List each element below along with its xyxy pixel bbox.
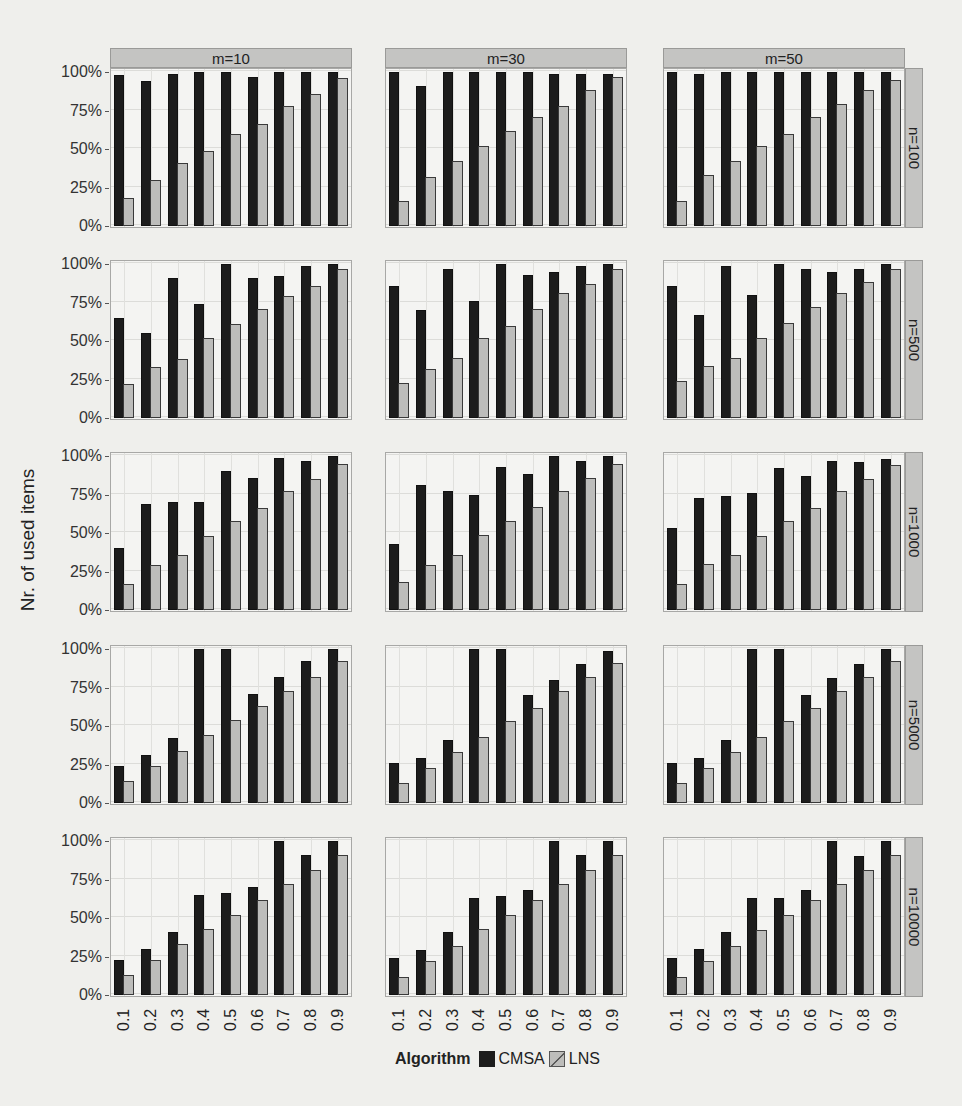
legend-swatch-cmsa bbox=[479, 1051, 495, 1067]
bar-lns bbox=[676, 783, 687, 803]
bar-lns bbox=[585, 478, 596, 610]
bar-lns bbox=[177, 163, 188, 226]
y-tick-label: 75% bbox=[52, 871, 102, 889]
bar-lns bbox=[890, 855, 901, 995]
bar-lns bbox=[283, 296, 294, 418]
bar-lns bbox=[177, 751, 188, 803]
bar-lns bbox=[730, 555, 741, 610]
bar-lns bbox=[783, 521, 794, 610]
bar-lns bbox=[257, 124, 268, 226]
bar-lns bbox=[756, 146, 767, 226]
bar-lns bbox=[532, 708, 543, 803]
bar-lns bbox=[452, 946, 463, 995]
x-tick-label: 0.4 bbox=[470, 1009, 488, 1031]
bar-lns bbox=[257, 900, 268, 995]
y-tick-label: 25% bbox=[52, 371, 102, 389]
bar-lns bbox=[425, 565, 436, 610]
bar-lns bbox=[612, 663, 623, 803]
x-tick-label: 0.2 bbox=[142, 1009, 160, 1031]
bar-lns bbox=[558, 293, 569, 418]
bar-lns bbox=[532, 117, 543, 226]
facet-strip-label: n=100 bbox=[906, 127, 923, 169]
bar-lns bbox=[836, 691, 847, 803]
x-tick-label: 0.3 bbox=[444, 1009, 462, 1031]
bar-lns bbox=[478, 929, 489, 995]
vertical-gridline bbox=[124, 646, 125, 804]
bar-lns bbox=[310, 870, 321, 995]
bar-lns bbox=[730, 946, 741, 995]
bar-lns bbox=[558, 106, 569, 226]
x-tick-label: 0.5 bbox=[497, 1009, 515, 1031]
panel-n=5000-m=50 bbox=[663, 645, 905, 805]
bar-lns bbox=[337, 855, 348, 995]
y-tick-mark bbox=[105, 264, 109, 265]
y-tick-label: 0% bbox=[52, 794, 102, 812]
bar-lns bbox=[810, 307, 821, 418]
bar-lns bbox=[150, 367, 161, 418]
bar-lns bbox=[505, 131, 516, 226]
facet-strip-label: n=5000 bbox=[906, 700, 923, 750]
y-tick-label: 50% bbox=[52, 909, 102, 927]
bar-lns bbox=[425, 177, 436, 226]
x-tick-label: 0.9 bbox=[329, 1009, 347, 1031]
bar-lns bbox=[703, 564, 714, 610]
bar-lns bbox=[203, 338, 214, 418]
y-tick-mark bbox=[105, 649, 109, 650]
y-tick-mark bbox=[105, 188, 109, 189]
y-tick-mark bbox=[105, 533, 109, 534]
y-tick-mark bbox=[105, 957, 109, 958]
bar-lns bbox=[890, 80, 901, 226]
y-tick-label: 100% bbox=[52, 63, 102, 81]
facet-strip-n-1000: n=1000 bbox=[905, 452, 923, 612]
facet-strip-m-30: m=30 bbox=[385, 48, 627, 68]
bar-lns bbox=[123, 584, 134, 610]
bar-lns bbox=[283, 491, 294, 610]
bar-lns bbox=[810, 708, 821, 803]
bar-lns bbox=[203, 536, 214, 610]
y-tick-mark bbox=[105, 495, 109, 496]
y-tick-label: 100% bbox=[52, 640, 102, 658]
bar-lns bbox=[783, 323, 794, 418]
bar-lns bbox=[310, 94, 321, 226]
bar-lns bbox=[283, 884, 294, 995]
facet-strip-n-5000: n=5000 bbox=[905, 645, 923, 805]
vertical-gridline bbox=[399, 838, 400, 996]
bar-lns bbox=[203, 735, 214, 803]
y-tick-label: 100% bbox=[52, 832, 102, 850]
legend-label-lns: LNS bbox=[569, 1050, 600, 1068]
x-tick-label: 0.3 bbox=[169, 1009, 187, 1031]
y-tick-mark bbox=[105, 456, 109, 457]
bar-lns bbox=[863, 90, 874, 226]
y-tick-label: 0% bbox=[52, 217, 102, 235]
panel-n=1000-m=30 bbox=[385, 452, 627, 612]
facet-strip-m-50: m=50 bbox=[663, 48, 905, 68]
bar-lns bbox=[123, 198, 134, 226]
bar-lns bbox=[478, 338, 489, 418]
bar-lns bbox=[612, 464, 623, 610]
bar-lns bbox=[783, 721, 794, 803]
bar-lns bbox=[452, 358, 463, 418]
legend-title: Algorithm bbox=[395, 1050, 471, 1068]
y-tick-mark bbox=[105, 610, 109, 611]
vertical-gridline bbox=[677, 838, 678, 996]
bar-lns bbox=[203, 929, 214, 995]
y-tick-mark bbox=[105, 72, 109, 73]
x-tick-label: 0.9 bbox=[882, 1009, 900, 1031]
bar-lns bbox=[783, 915, 794, 995]
y-tick-mark bbox=[105, 918, 109, 919]
facet-strip-n-10000: n=10000 bbox=[905, 837, 923, 997]
x-tick-label: 0.1 bbox=[115, 1009, 133, 1031]
y-tick-label: 100% bbox=[52, 255, 102, 273]
x-tick-label: 0.1 bbox=[668, 1009, 686, 1031]
bar-lns bbox=[425, 369, 436, 418]
bar-lns bbox=[310, 677, 321, 803]
bar-lns bbox=[730, 161, 741, 226]
bar-lns bbox=[703, 175, 714, 226]
bar-lns bbox=[532, 900, 543, 995]
x-tick-label: 0.2 bbox=[417, 1009, 435, 1031]
bar-lns bbox=[283, 691, 294, 803]
bar-lns bbox=[585, 870, 596, 995]
y-tick-label: 0% bbox=[52, 601, 102, 619]
panel-n=1000-m=10 bbox=[110, 452, 352, 612]
bar-lns bbox=[863, 282, 874, 418]
